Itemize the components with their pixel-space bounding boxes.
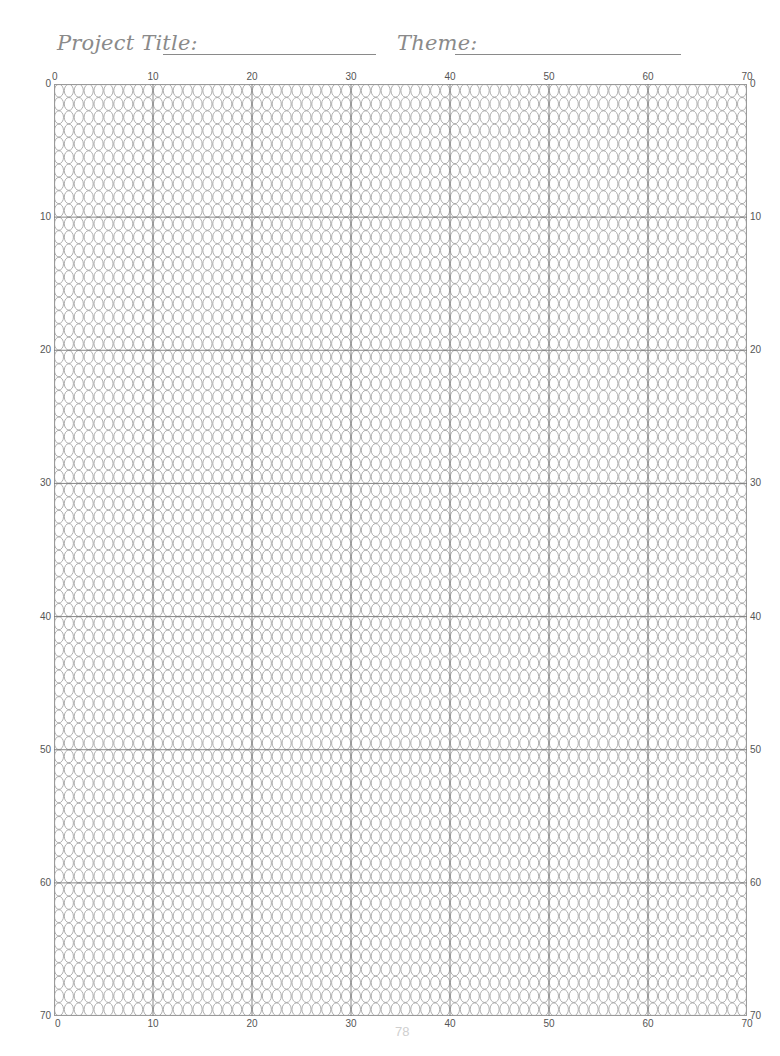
- axis-bottom-tick-label: 60: [642, 1019, 653, 1029]
- axis-top-tick-label: 50: [543, 72, 554, 82]
- axis-left-tick-label: 60: [40, 878, 51, 888]
- page-number: 78: [395, 1024, 409, 1039]
- axis-bottom-tick-label: 0: [55, 1019, 61, 1029]
- axis-bottom-tick-label: 10: [147, 1019, 158, 1029]
- axis-bottom-tick-label: 20: [246, 1019, 257, 1029]
- axis-top-tick-label: 60: [642, 72, 653, 82]
- axis-bottom-tick-label: 40: [444, 1019, 455, 1029]
- axis-right-tick-label: 20: [750, 345, 761, 355]
- axis-top-tick-label: 20: [246, 72, 257, 82]
- axis-right-tick-label: 30: [750, 478, 761, 488]
- axis-left-tick-label: 70: [40, 1011, 51, 1021]
- axis-left-tick-label: 40: [40, 612, 51, 622]
- axis-bottom-tick-label: 50: [543, 1019, 554, 1029]
- axis-left-tick-label: 30: [40, 478, 51, 488]
- oval-cell-grid: [54, 84, 747, 1016]
- axis-right-tick-label: 70: [750, 1011, 761, 1021]
- axis-left-tick-label: 0: [45, 79, 51, 89]
- axis-left-tick-label: 10: [40, 212, 51, 222]
- axis-top-tick-label: 0: [52, 72, 58, 82]
- axis-right-tick-label: 60: [750, 878, 761, 888]
- axis-right-tick-label: 0: [750, 79, 756, 89]
- axis-top-tick-label: 30: [345, 72, 356, 82]
- axis-right-tick-label: 10: [750, 212, 761, 222]
- axis-top-tick-label: 40: [444, 72, 455, 82]
- axis-left-tick-label: 50: [40, 745, 51, 755]
- project-title-field-line[interactable]: [163, 54, 376, 55]
- bead-grid[interactable]: [54, 84, 747, 1016]
- axis-bottom-tick-label: 30: [345, 1019, 356, 1029]
- theme-field-line[interactable]: [455, 54, 681, 55]
- theme-label: Theme:: [397, 31, 478, 55]
- axis-top-tick-label: 10: [147, 72, 158, 82]
- axis-left-tick-label: 20: [40, 345, 51, 355]
- project-title-label: Project Title:: [57, 31, 198, 55]
- axis-right-tick-label: 40: [750, 612, 761, 622]
- axis-right-tick-label: 50: [750, 745, 761, 755]
